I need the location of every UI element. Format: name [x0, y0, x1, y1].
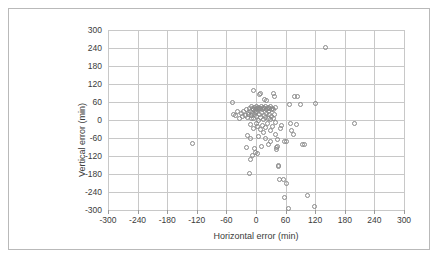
scatter-point — [244, 145, 249, 150]
scatter-point — [282, 195, 287, 200]
scatter-point — [305, 193, 310, 198]
scatter-point — [302, 142, 307, 147]
y-axis-tick-label: 240 — [88, 44, 102, 53]
x-axis-tick-mark — [345, 210, 346, 214]
y-axis-tick-label: 60 — [93, 98, 102, 107]
x-axis-tick-mark — [197, 210, 198, 214]
y-axis-tick-label: 180 — [88, 62, 102, 71]
scatter-point — [276, 164, 281, 169]
gridline-vertical — [345, 30, 346, 210]
scatter-chart-figure: -300-240-180-120-60060120180240300 Verti… — [0, 0, 448, 262]
y-axis-tick-label: 0 — [97, 116, 102, 125]
scatter-point — [247, 171, 252, 176]
plot-area — [108, 30, 404, 210]
gridline-vertical — [404, 30, 405, 210]
gridline-vertical — [197, 30, 198, 210]
y-axis-title-container: Vertical error (min) — [56, 30, 70, 210]
scatter-point — [275, 137, 280, 142]
gridline-vertical — [315, 30, 316, 210]
scatter-point — [273, 132, 278, 137]
gridline-vertical — [374, 30, 375, 210]
gridline-vertical — [226, 30, 227, 210]
x-axis-tick-mark — [315, 210, 316, 214]
scatter-point — [288, 121, 293, 126]
x-axis-tick-mark — [226, 210, 227, 214]
scatter-point — [266, 142, 271, 147]
x-axis-tick-labels: -300-240-180-120-60060120180240300 — [108, 216, 404, 230]
scatter-point — [295, 94, 300, 99]
scatter-point — [261, 130, 266, 135]
gridline-vertical — [108, 30, 109, 210]
y-axis-tick-label: -60 — [90, 134, 102, 143]
scatter-point — [190, 141, 195, 146]
x-axis-title: Horizontal error (min) — [108, 231, 404, 241]
scatter-point — [352, 121, 357, 126]
scatter-point — [231, 112, 236, 117]
x-axis-tick-mark — [374, 210, 375, 214]
scatter-point — [294, 122, 299, 127]
scatter-point — [274, 145, 279, 150]
x-axis-tick-mark — [138, 210, 139, 214]
x-axis-tick-mark — [108, 210, 109, 214]
scatter-point — [312, 204, 317, 209]
y-axis-tick-label: 300 — [88, 26, 102, 35]
scatter-point — [287, 102, 292, 107]
y-axis-tick-label: -300 — [85, 206, 102, 215]
scatter-point — [313, 101, 318, 106]
scatter-point — [258, 91, 263, 96]
gridline-vertical — [138, 30, 139, 210]
x-axis-tick-label: 300 — [384, 216, 424, 225]
scatter-point — [259, 144, 264, 149]
scatter-point — [284, 139, 289, 144]
y-axis-tick-label: -180 — [85, 170, 102, 179]
scatter-point — [248, 136, 253, 141]
scatter-point — [254, 121, 259, 126]
scatter-point — [278, 126, 283, 131]
scatter-point — [248, 157, 253, 162]
scatter-point — [268, 128, 273, 133]
x-axis-tick-mark — [167, 210, 168, 214]
scatter-point — [323, 45, 328, 50]
scatter-point — [251, 88, 256, 93]
scatter-point — [230, 100, 235, 105]
scatter-point — [284, 181, 289, 186]
scatter-point — [286, 206, 291, 211]
x-axis-tick-mark — [256, 210, 257, 214]
y-axis-tick-label: -240 — [85, 188, 102, 197]
y-axis-tick-label: 120 — [88, 80, 102, 89]
scatter-point — [263, 136, 268, 141]
scatter-point — [298, 102, 303, 107]
y-axis-title: Vertical error (min) — [77, 70, 87, 210]
y-axis-tick-label: -120 — [85, 152, 102, 161]
x-axis-tick-mark — [404, 210, 405, 214]
gridline-vertical — [167, 30, 168, 210]
